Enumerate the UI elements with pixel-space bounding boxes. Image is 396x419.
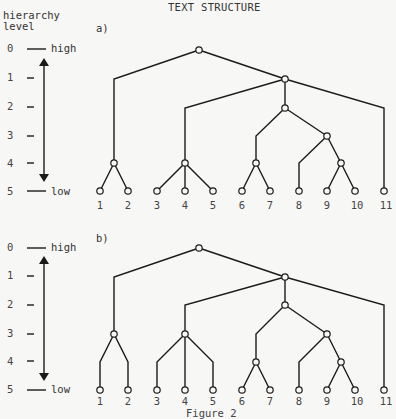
leaf-node-icon [125, 387, 131, 393]
node-icon [196, 47, 202, 53]
node-icon [182, 160, 188, 166]
leaf-node-icon [182, 387, 188, 393]
leaf-node-icon [267, 188, 273, 194]
node-icon [253, 359, 259, 365]
node-icon [111, 331, 117, 337]
leaf-node-icon [296, 188, 302, 194]
node-icon [253, 160, 259, 166]
tree-a [100, 50, 384, 191]
tree-b-nodes [97, 245, 387, 393]
node-icon [196, 245, 202, 251]
node-icon [111, 160, 117, 166]
node-icon [282, 76, 288, 82]
leaf-node-icon [97, 387, 103, 393]
leaf-node-icon [381, 188, 387, 194]
leaf-node-icon [210, 387, 216, 393]
leaf-node-icon [239, 387, 245, 393]
leaf-node-icon [154, 387, 160, 393]
node-icon [338, 160, 344, 166]
leaf-node-icon [125, 188, 131, 194]
leaf-node-icon [352, 387, 358, 393]
leaf-node-icon [324, 387, 330, 393]
node-icon [324, 133, 330, 139]
node-icon [182, 331, 188, 337]
node-icon [282, 302, 288, 308]
tree-a-nodes [97, 47, 387, 194]
hierarchy-axis-a [27, 49, 46, 191]
leaf-node-icon [154, 188, 160, 194]
leaf-node-icon [352, 188, 358, 194]
leaf-node-icon [296, 387, 302, 393]
node-icon [282, 274, 288, 280]
node-icon [338, 359, 344, 365]
leaf-node-icon [239, 188, 245, 194]
node-icon [324, 331, 330, 337]
leaf-node-icon [97, 188, 103, 194]
leaf-node-icon [381, 387, 387, 393]
node-icon [282, 105, 288, 111]
hierarchy-axis-b [27, 248, 46, 390]
leaf-node-icon [182, 188, 188, 194]
leaf-node-icon [324, 188, 330, 194]
leaf-node-icon [267, 387, 273, 393]
tree-b [100, 248, 384, 390]
leaf-node-icon [210, 188, 216, 194]
